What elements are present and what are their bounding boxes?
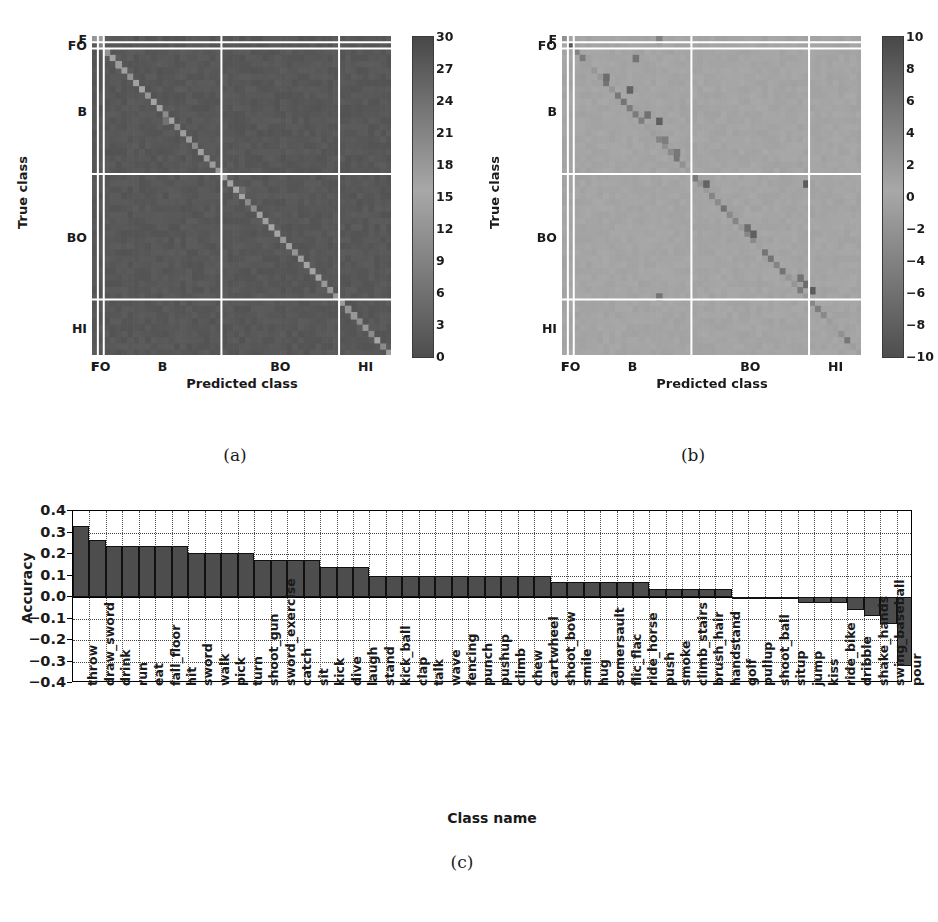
bar[interactable] (534, 576, 550, 598)
bar-xtick-label: jump (810, 651, 825, 686)
matrix-ytick: FO (538, 38, 562, 53)
gridline-vertical (748, 511, 749, 681)
bar[interactable] (781, 597, 797, 599)
panel-a-colorbar: 302724211815129630 (412, 36, 432, 356)
bar[interactable] (732, 597, 748, 599)
bar[interactable] (452, 576, 468, 598)
bar-xtick-label: somersault (612, 607, 627, 686)
bar-xtick-label: pushup (497, 634, 512, 686)
panel-c-xlabel: Class name (72, 810, 912, 826)
bar-xtick-label: hit (184, 667, 199, 686)
bar-xtick-label: push (662, 652, 677, 686)
colorbar-tick: 6 (906, 93, 915, 108)
bar[interactable] (633, 582, 649, 597)
panel-b-colorbar: 1086420−2−4−6−8−10 (882, 36, 902, 356)
bar[interactable] (551, 582, 567, 597)
bar[interactable] (89, 540, 105, 597)
bar[interactable] (682, 589, 698, 597)
colorbar-tick: 18 (436, 157, 453, 172)
bar[interactable] (337, 567, 353, 597)
matrix-ytick: HI (72, 320, 92, 335)
bar[interactable] (666, 589, 682, 597)
bar[interactable] (172, 546, 188, 597)
bar[interactable] (238, 553, 254, 597)
bar-xtick-label: run (135, 662, 150, 686)
bar[interactable] (139, 546, 155, 597)
colorbar-tick: 27 (436, 61, 453, 76)
bar[interactable] (485, 576, 501, 598)
bar-ytick-mark (67, 618, 72, 619)
bar-xtick-label: swing_baseball (892, 579, 907, 686)
colorbar-tick: 8 (906, 61, 915, 76)
colorbar-tick: 4 (906, 125, 915, 140)
bar[interactable] (765, 597, 781, 599)
bar[interactable] (798, 597, 814, 603)
bar[interactable] (155, 546, 171, 597)
bar[interactable] (584, 582, 600, 597)
bar-xtick-label: catch (299, 648, 314, 686)
bar[interactable] (188, 553, 204, 597)
bar[interactable] (617, 582, 633, 597)
bar[interactable] (468, 576, 484, 598)
bar-xtick-label: ride_horse (645, 612, 660, 686)
matrix-ytick: B (77, 104, 92, 119)
bar-xtick-label: hug (596, 659, 611, 686)
caption-a: (a) (0, 445, 470, 465)
bar-ytick-mark (67, 532, 72, 533)
panel-a-ylabel: True class (15, 153, 30, 233)
bar[interactable] (847, 597, 863, 610)
bar[interactable] (435, 576, 451, 598)
matrix-xtick: B (158, 356, 168, 374)
bar-xtick-label: shoot_bow (563, 611, 578, 686)
bar[interactable] (501, 576, 517, 598)
bar[interactable] (386, 576, 402, 598)
bar-xtick-label: drink (118, 649, 133, 686)
bar[interactable] (814, 597, 830, 603)
bar-xtick-label: climb (513, 648, 528, 686)
bar[interactable] (353, 567, 369, 597)
bar[interactable] (419, 576, 435, 598)
bar[interactable] (831, 597, 847, 603)
bar-xtick-label: smile (579, 648, 594, 686)
bar[interactable] (254, 560, 270, 597)
bar[interactable] (106, 546, 122, 597)
bar[interactable] (715, 589, 731, 597)
bar-xtick-label: sit (316, 668, 331, 686)
bar[interactable] (304, 560, 320, 597)
matrix-xtick: HI (828, 356, 843, 374)
panel-c-xticklabels: throwdraw_sworddrinkruneatfall_floorhits… (72, 684, 912, 864)
bar-ytick-mark (67, 682, 72, 683)
bar[interactable] (320, 567, 336, 597)
colorbar-tick: 0 (436, 349, 445, 364)
bar[interactable] (122, 546, 138, 597)
bar-xtick-label: flic_flac (629, 634, 644, 686)
bar-xtick-label: draw_sword (102, 602, 117, 686)
bar-xtick-label: fall_floor (168, 625, 183, 686)
panel-b-xlabel: Predicted class (562, 376, 862, 391)
bar[interactable] (369, 576, 385, 598)
bar-xtick-label: cartwheel (546, 616, 561, 686)
bar-xtick-label: shoot_gun (266, 614, 281, 687)
bar[interactable] (649, 589, 665, 597)
bar-xtick-label: wave (448, 649, 463, 686)
bar-xtick-label: pullup (760, 642, 775, 686)
bar[interactable] (221, 553, 237, 597)
gridline-vertical (831, 511, 832, 681)
gridline-horizontal (73, 533, 911, 534)
bar-xtick-label: dive (349, 656, 364, 686)
matrix-xtick: FO (561, 356, 580, 374)
colorbar-tick: −10 (906, 349, 934, 364)
bar[interactable] (205, 553, 221, 597)
bar[interactable] (748, 597, 764, 599)
colorbar-tick: 12 (436, 221, 453, 236)
bar[interactable] (402, 576, 418, 598)
bar-xtick-label: ride_bike (843, 622, 858, 686)
bar[interactable] (518, 576, 534, 598)
colorbar-tick: 30 (436, 29, 453, 44)
bar-xtick-label: kick (332, 658, 347, 686)
bar[interactable] (600, 582, 616, 597)
bar[interactable] (73, 526, 89, 597)
bar[interactable] (567, 582, 583, 597)
bar-ytick-label: −0.4 (28, 674, 72, 690)
bar[interactable] (699, 589, 715, 597)
